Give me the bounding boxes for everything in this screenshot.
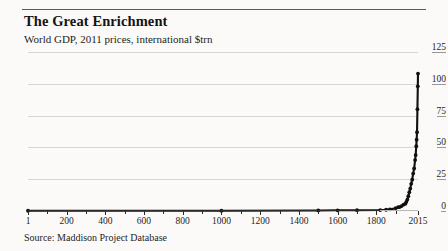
x-tick-label: 1800 [367,216,386,226]
x-tick-label: 2015 [409,216,428,226]
data-point [416,107,420,111]
x-tick [67,211,68,215]
data-point [406,194,410,198]
x-tick-label: 200 [59,216,73,226]
x-tick-label: 1400 [289,216,308,226]
data-point [415,138,419,142]
x-axis-extension [380,210,418,211]
y-tick-label: 100 [420,74,446,84]
x-tick [376,211,377,215]
data-point [408,187,412,191]
chart-figure: The Great Enrichment World GDP, 2011 pri… [0,0,448,251]
data-point [411,172,415,176]
y-tick-label: 50 [420,137,446,147]
x-tick [260,211,261,215]
x-tick [105,211,106,215]
x-tick [163,211,164,214]
x-tick-label: 600 [137,216,151,226]
source-note: Source: Maddison Project Database [24,232,167,243]
x-tick-label: 800 [176,216,190,226]
x-tick [396,211,397,214]
x-tick-label: 1000 [212,216,231,226]
x-tick [86,211,87,214]
x-tick [299,211,300,215]
x-tick [241,211,242,214]
x-tick [125,211,126,214]
data-point [414,144,418,148]
x-tick [318,211,319,214]
y-tick-label: 125 [420,42,446,52]
data-point [410,178,414,182]
series-world-gdp [28,52,418,211]
data-point [416,84,420,88]
data-point [405,198,409,202]
y-tick-label: 25 [420,169,446,179]
x-tick [338,211,339,215]
x-tick-label: 1600 [328,216,347,226]
x-tick [202,211,203,214]
y-tick-label: 0 [420,201,446,211]
data-point [415,130,419,134]
x-tick-label: 400 [98,216,112,226]
x-tick [47,211,48,214]
data-point [409,182,413,186]
x-tick [280,211,281,214]
x-tick-label: 1200 [251,216,270,226]
x-tick [221,211,222,215]
page-title: The Great Enrichment [24,13,168,30]
x-tick [28,211,29,215]
x-tick-label: 1 [26,216,31,226]
data-point [412,167,416,171]
chart-subtitle: World GDP, 2011 prices, international $t… [24,33,212,45]
data-point [414,153,418,157]
plot-area [28,52,418,211]
x-tick [418,211,419,215]
x-tick [183,211,184,215]
header-rule [22,9,426,10]
series-line [28,74,418,211]
y-tick-label: 75 [420,106,446,116]
x-tick [144,211,145,215]
data-point [407,190,411,194]
data-point [413,158,417,162]
x-tick [357,211,358,214]
